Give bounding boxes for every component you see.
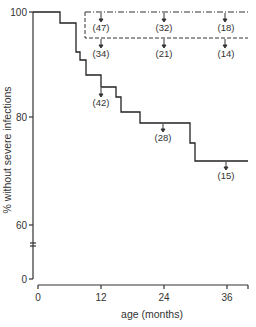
annotation-dashed-36: (14) bbox=[218, 48, 235, 59]
y-tick-60: 60 bbox=[16, 220, 28, 231]
annotation-solid-36: (15) bbox=[218, 170, 235, 181]
km-chart: 100 80 60 0 % without severe infections … bbox=[0, 0, 256, 327]
y-tick-0: 0 bbox=[21, 274, 27, 285]
x-tick-12: 12 bbox=[95, 292, 107, 303]
y-axis-title: % without severe infections bbox=[1, 86, 13, 213]
x-axis-title: age (months) bbox=[121, 308, 183, 320]
y-axis bbox=[29, 12, 36, 279]
x-axis bbox=[38, 285, 248, 289]
annotation-solid-24: (28) bbox=[155, 132, 172, 143]
annotation-dashed-24: (21) bbox=[156, 48, 173, 59]
y-tick-80: 80 bbox=[16, 112, 28, 123]
annotation-dashdot-36: (18) bbox=[218, 22, 235, 33]
annotation-dashed-12: (34) bbox=[93, 48, 110, 59]
y-tick-100: 100 bbox=[10, 7, 27, 18]
x-tick-36: 36 bbox=[221, 292, 233, 303]
solid-step-curve bbox=[33, 12, 248, 161]
annotation-solid-12: (42) bbox=[93, 97, 110, 108]
x-tick-0: 0 bbox=[35, 292, 41, 303]
annotation-arrows bbox=[99, 13, 228, 170]
x-tick-24: 24 bbox=[158, 292, 170, 303]
annotation-dashdot-24: (32) bbox=[156, 22, 173, 33]
annotation-dashdot-12: (47) bbox=[93, 22, 110, 33]
